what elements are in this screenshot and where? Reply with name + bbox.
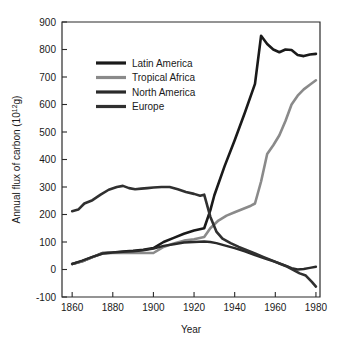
y-tick-label: 400	[39, 154, 56, 165]
figure-container: -1000100200300400500600700800900 1860188…	[0, 0, 340, 346]
x-tick-label: 1980	[305, 302, 328, 313]
y-tick-label: 200	[39, 209, 56, 220]
line-chart: -1000100200300400500600700800900 1860188…	[0, 0, 340, 346]
x-axis-title: Year	[181, 324, 202, 335]
x-tick-label: 1920	[183, 302, 206, 313]
y-tick-label: 700	[39, 72, 56, 83]
x-tick-label: 1860	[61, 302, 84, 313]
y-tick-label: 500	[39, 127, 56, 138]
y-tick-label: 600	[39, 99, 56, 110]
legend-label: Tropical Africa	[132, 72, 195, 83]
y-tick-label: 100	[39, 237, 56, 248]
y-tick-label: 900	[39, 17, 56, 28]
y-tick-label: 800	[39, 44, 56, 55]
x-tick-label: 1960	[264, 302, 287, 313]
x-tick-label: 1880	[102, 302, 125, 313]
y-axis-title: Annual flux of carbon (1012g)	[11, 96, 23, 224]
legend-label: Europe	[132, 101, 165, 112]
y-tick-label: 0	[50, 264, 56, 275]
y-tick-label: 300	[39, 182, 56, 193]
x-tick-label: 1900	[142, 302, 165, 313]
legend-label: Latin America	[132, 58, 193, 69]
legend-label: North America	[132, 87, 196, 98]
x-tick-label: 1940	[224, 302, 247, 313]
y-tick-label: -100	[36, 292, 56, 303]
